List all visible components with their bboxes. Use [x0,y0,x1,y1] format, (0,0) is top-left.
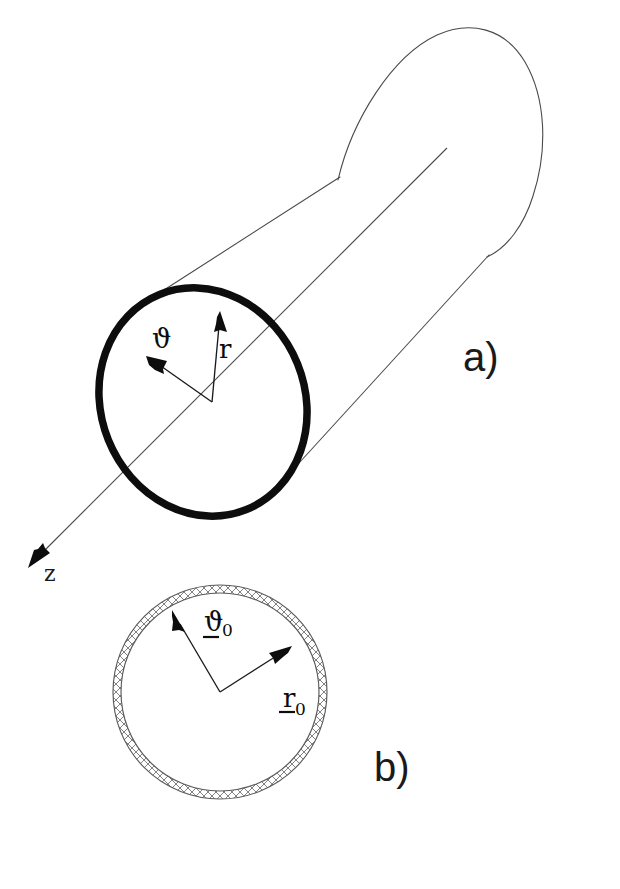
figure-root: ϑ r z a) ϑ 0 [0,0,620,889]
z-axis-line [38,148,447,557]
panel-b-label: b) [374,745,410,789]
theta-zero-symbol: ϑ [204,606,223,637]
theta-zero-subscript: 0 [222,620,233,640]
cylinder-far-cap-arc [338,28,543,257]
panel-b-group: ϑ 0 r 0 b) [105,575,410,809]
panel-a-label: a) [463,335,499,379]
cylinder-near-cap-outline [65,256,341,548]
panel-a-group: ϑ r z a) [28,28,543,586]
theta-vector-arrowhead [146,356,167,374]
z-axis-label: z [44,561,56,586]
theta-zero-label-group: ϑ 0 [203,606,233,640]
theta-symbol-label: ϑ [152,323,171,354]
cylinder-coordinate-diagram: ϑ r z a) ϑ 0 [0,0,620,889]
r-vector-arrowhead [214,311,227,332]
r-zero-label-group: r 0 [279,683,306,719]
theta-zero-vector-arrowhead [172,610,185,632]
cylinder-upper-edge [150,177,340,299]
r-zero-vector-arrowhead [269,646,292,664]
r-symbol-label: r [219,334,232,364]
theta-vector-line [158,364,212,402]
r-vector-line [212,326,219,402]
r-zero-vector-line [220,655,278,692]
r-zero-subscript: 0 [295,699,306,719]
